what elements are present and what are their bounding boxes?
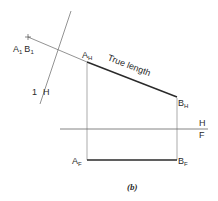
label-b-h: BH <box>178 98 188 109</box>
figure-caption: (b) <box>127 182 138 192</box>
projection-line-a1b1-to-ah <box>28 37 87 62</box>
label-fold-h-oblique: H <box>43 87 50 97</box>
label-a-h: AH <box>82 50 92 61</box>
point-view-a1b1-marker <box>25 34 31 40</box>
descriptive-geometry-diagram: A1B1 1 H AH True length BH H F AF BF (b) <box>0 0 218 201</box>
label-a1b1: A1B1 <box>13 44 34 55</box>
label-true-length: True length <box>106 53 152 79</box>
label-fold-1: 1 <box>32 87 37 97</box>
label-a-f: AF <box>72 156 82 167</box>
label-fold-f: F <box>199 130 205 140</box>
label-fold-h: H <box>199 118 206 128</box>
label-b-f: BF <box>178 156 188 167</box>
